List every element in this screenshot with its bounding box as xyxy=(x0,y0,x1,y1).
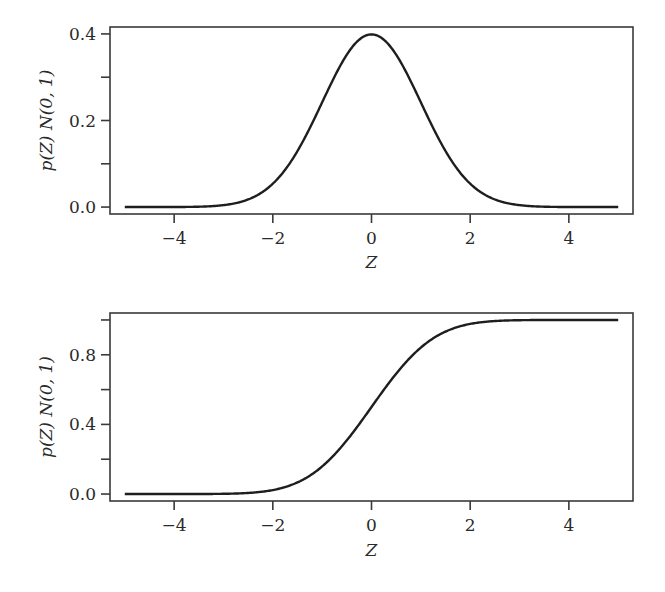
pdf-curve xyxy=(125,34,618,207)
cdf-curve xyxy=(125,320,618,494)
x-tick-label: 2 xyxy=(465,228,476,248)
plot-frame xyxy=(110,27,633,214)
figure: −4−20240.00.20.4Zp(Z) N(0, 1) −4−20240.0… xyxy=(0,0,665,592)
cdf-plot: −4−20240.00.40.8Zp(Z) N(0, 1) xyxy=(36,313,633,560)
y-tick-label: 0.0 xyxy=(69,484,96,504)
y-tick-label: 0.2 xyxy=(69,111,96,131)
x-tick-label: 2 xyxy=(465,515,476,535)
y-axis-label: p(Z) N(0, 1) xyxy=(36,70,56,172)
y-tick-label: 0.0 xyxy=(69,197,96,217)
y-tick-label: 0.4 xyxy=(69,24,96,44)
x-tick-label: −4 xyxy=(162,228,187,248)
y-tick-label: 0.4 xyxy=(69,414,96,434)
x-tick-label: 0 xyxy=(366,228,377,248)
x-tick-label: 4 xyxy=(563,228,574,248)
x-axis-label: Z xyxy=(365,540,379,560)
y-axis-label: p(Z) N(0, 1) xyxy=(36,356,56,458)
x-tick-label: −2 xyxy=(260,228,285,248)
x-tick-label: −2 xyxy=(260,515,285,535)
x-tick-label: 4 xyxy=(563,515,574,535)
x-axis-label: Z xyxy=(365,252,379,272)
pdf-plot: −4−20240.00.20.4Zp(Z) N(0, 1) xyxy=(36,24,633,272)
x-tick-label: 0 xyxy=(366,515,377,535)
y-tick-label: 0.8 xyxy=(69,345,96,365)
x-tick-label: −4 xyxy=(162,515,187,535)
